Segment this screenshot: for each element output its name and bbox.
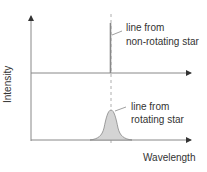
lower-annotation-line1: line from <box>131 101 169 113</box>
lower-annotation-line2: rotating star <box>131 114 184 126</box>
broadened-peak <box>90 110 132 140</box>
upper-annotation-line2: non-rotating star <box>126 36 199 48</box>
y-axis-label: Intensity <box>2 66 13 103</box>
diagram-canvas <box>0 0 207 172</box>
upper-leader-line <box>112 31 122 35</box>
upper-annotation-line1: line from <box>126 22 164 34</box>
x-axis-label: Wavelength <box>143 152 195 164</box>
lower-leader-line <box>115 107 126 111</box>
